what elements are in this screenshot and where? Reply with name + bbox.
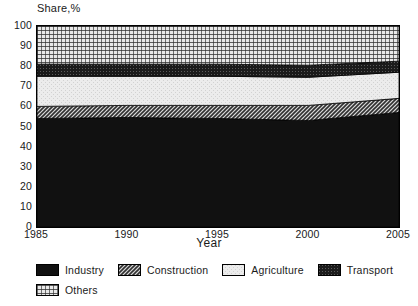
y-tick-90: 90 xyxy=(0,40,32,50)
y-tick-30: 30 xyxy=(0,161,32,171)
y-tick-60: 60 xyxy=(0,100,32,110)
legend-swatch-industry-icon xyxy=(36,264,59,276)
legend-item-construction[interactable]: Construction xyxy=(118,264,208,276)
legend-label-transport: Transport xyxy=(347,264,393,276)
legend-label-others: Others xyxy=(65,284,98,296)
legend-item-industry[interactable]: Industry xyxy=(36,264,104,276)
legend-label-construction: Construction xyxy=(147,264,208,276)
legend-swatch-agriculture-icon xyxy=(222,264,245,276)
legend-row-primary: IndustryConstructionAgricultureTransport xyxy=(36,262,412,278)
legend-swatch-construction-icon xyxy=(118,264,141,276)
area-band-agriculture xyxy=(37,72,399,106)
legend-swatch-others-icon xyxy=(36,284,59,296)
y-tick-10: 10 xyxy=(0,201,32,211)
y-tick-40: 40 xyxy=(0,141,32,151)
x-axis-title: Year xyxy=(0,236,418,250)
legend-row-secondary: Others xyxy=(36,282,412,298)
y-tick-50: 50 xyxy=(0,121,32,131)
y-tick-100: 100 xyxy=(0,20,32,30)
legend-label-industry: Industry xyxy=(65,264,104,276)
legend-swatch-transport-icon xyxy=(318,264,341,276)
legend-item-transport[interactable]: Transport xyxy=(318,264,393,276)
y-tick-70: 70 xyxy=(0,80,32,90)
area-series-svg xyxy=(37,26,399,227)
area-band-industry xyxy=(37,112,399,227)
y-tick-80: 80 xyxy=(0,60,32,70)
y-axis-title: Share,% xyxy=(37,2,81,14)
legend-item-others[interactable]: Others xyxy=(36,284,98,296)
legend-item-agriculture[interactable]: Agriculture xyxy=(222,264,303,276)
plot-area xyxy=(36,25,400,228)
area-band-others xyxy=(37,26,399,65)
chart-legend: IndustryConstructionAgricultureTransport… xyxy=(36,262,412,302)
y-tick-20: 20 xyxy=(0,181,32,191)
stacked-area-chart: Share,% 0102030405060708090100 xyxy=(0,0,418,306)
legend-label-agriculture: Agriculture xyxy=(251,264,303,276)
